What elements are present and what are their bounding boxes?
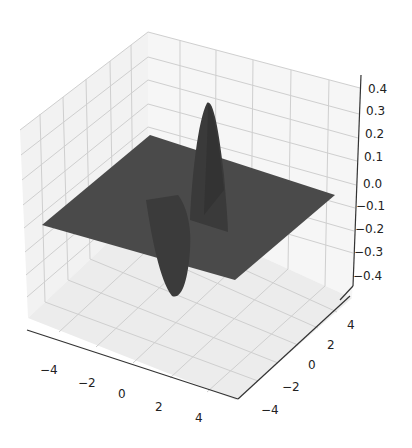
x-tick-label: 4	[195, 411, 203, 425]
z-tick-label: 0.2	[365, 127, 384, 141]
z-tick-label: 0.3	[366, 104, 385, 118]
z-tick-label: −0.4	[353, 269, 382, 283]
y-tick-label: 2	[327, 338, 335, 352]
y-tick-label: −2	[282, 380, 300, 394]
z-tick-label: −0.2	[355, 222, 384, 236]
y-tick-label: 4	[347, 318, 355, 332]
x-tick-label: 2	[155, 400, 163, 414]
y-tick-label: −4	[261, 403, 279, 417]
surface-plot-3d: 0.4 0.3 0.2 0.1 0.0 −0.1 −0.2 −0.3 −0.4 …	[0, 0, 412, 448]
y-tick-label: 0	[308, 358, 316, 372]
z-tick-label: 0.1	[364, 150, 383, 164]
x-tick-label: −4	[40, 363, 58, 377]
x-tick-label: 0	[118, 387, 126, 401]
z-tick-label: 0.4	[368, 82, 387, 96]
z-tick-label: −0.3	[354, 245, 383, 259]
z-tick-label: −0.1	[356, 199, 385, 213]
z-tick-label: 0.0	[363, 177, 382, 191]
x-tick-label: −2	[78, 376, 96, 390]
